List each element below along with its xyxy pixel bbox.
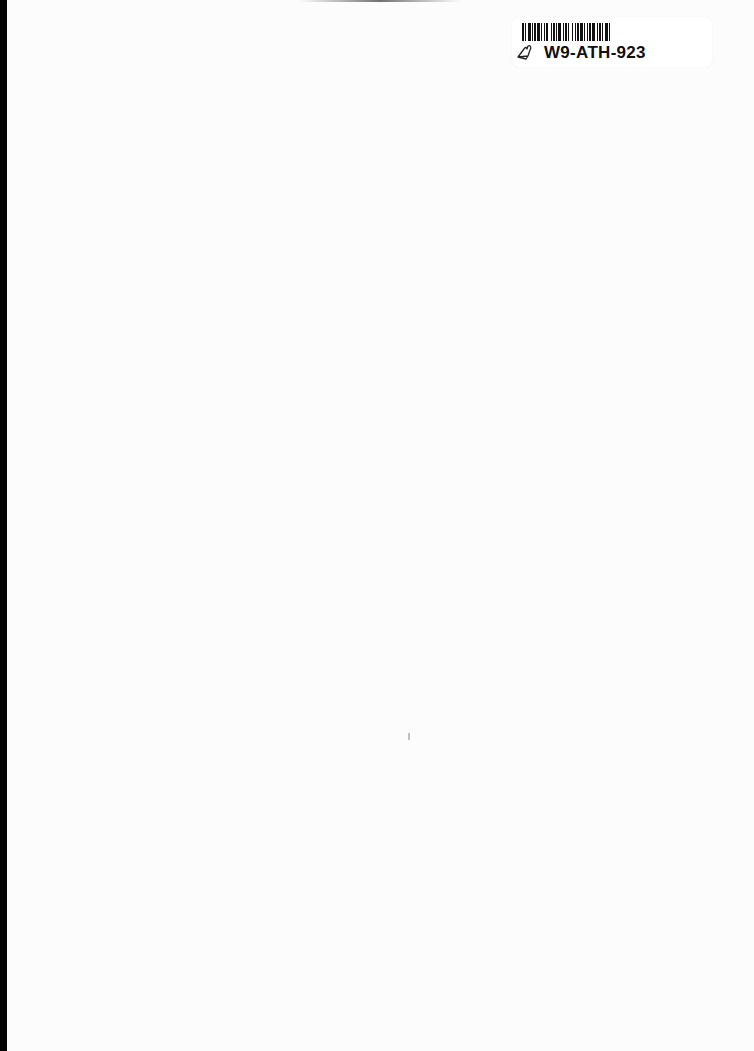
barcode-sticker: W9-ATH-923	[512, 17, 712, 67]
scanned-page: W9-ATH-923	[0, 0, 754, 1051]
hand-drawn-heart-icon	[516, 44, 536, 62]
scan-edge-shadow	[0, 0, 7, 1051]
scan-speck	[408, 733, 410, 740]
top-edge-shadow	[300, 0, 460, 2]
barcode-label-row: W9-ATH-923	[516, 43, 646, 63]
barcode-label: W9-ATH-923	[544, 43, 646, 63]
barcode-bar	[610, 23, 612, 41]
barcode	[522, 23, 692, 41]
